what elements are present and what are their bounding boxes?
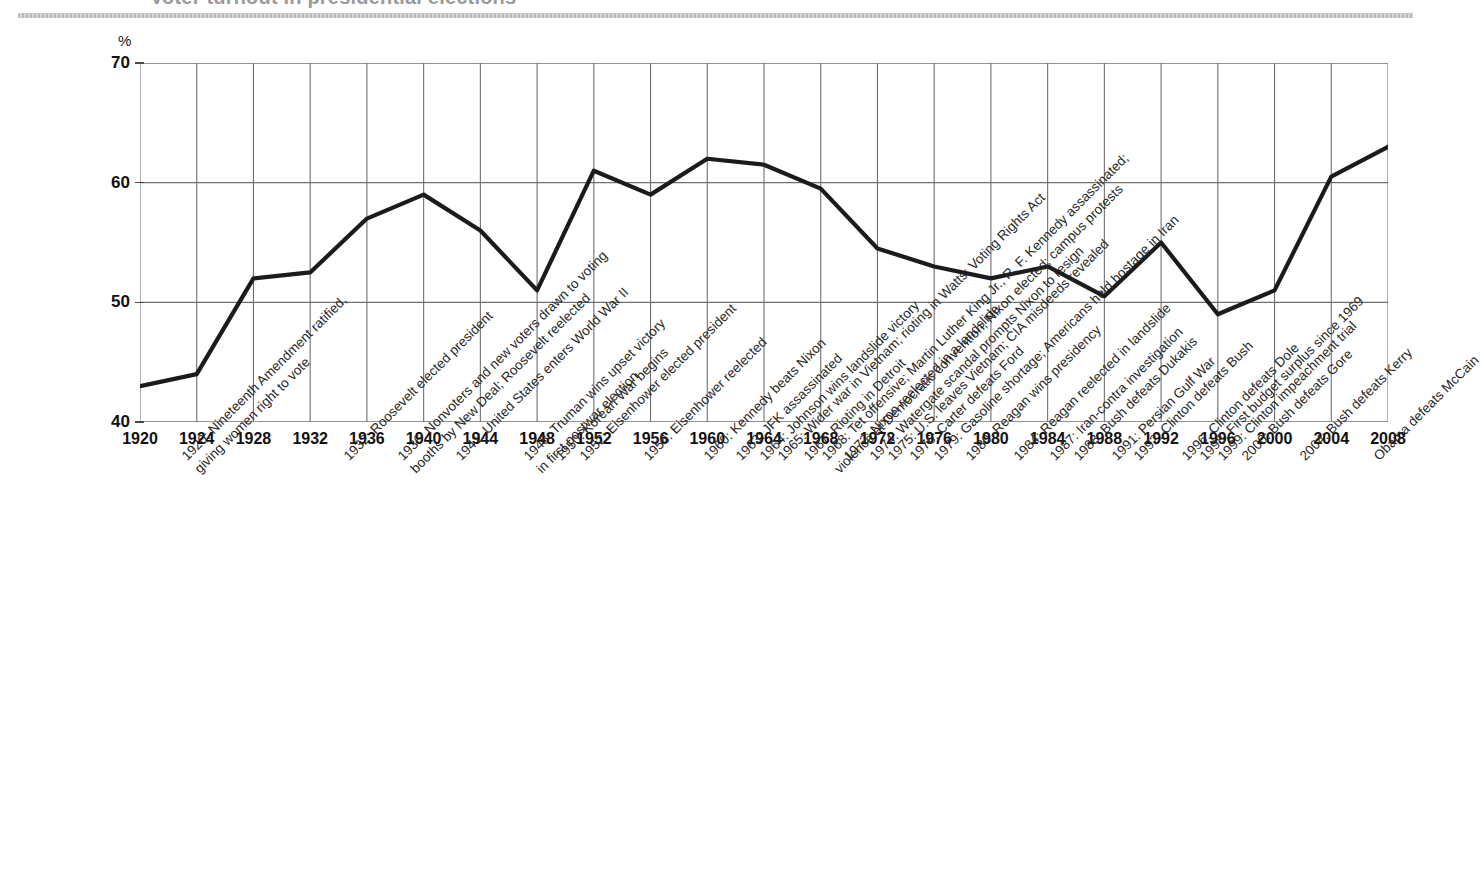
y-axis-tick-label: 40 xyxy=(88,412,130,432)
y-axis-tick-mark xyxy=(135,302,144,304)
y-axis-tick-mark xyxy=(135,182,144,184)
y-axis-tick-mark xyxy=(135,62,144,64)
y-axis-tick-mark xyxy=(135,421,144,423)
x-axis-tick-label-1932: 1932 xyxy=(292,430,328,448)
x-axis-tick-label-1920: 1920 xyxy=(122,430,158,448)
cut-off-page-title: Voter turnout in presidential elections xyxy=(150,0,516,9)
y-axis-tick-label: 50 xyxy=(88,292,130,312)
y-axis-tick-label: 70 xyxy=(88,53,130,73)
header-rule xyxy=(18,13,1413,18)
y-axis-tick-label: 60 xyxy=(88,173,130,193)
y-axis-unit-label: % xyxy=(118,32,131,49)
